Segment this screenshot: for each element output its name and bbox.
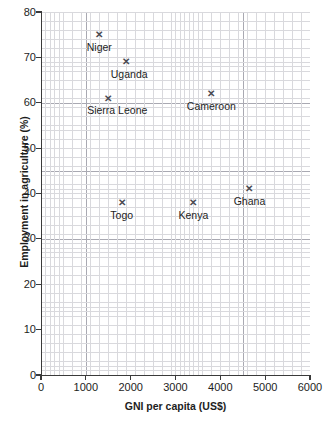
data-point-marker: ✕ xyxy=(117,198,126,207)
x-tick-2000 xyxy=(130,375,131,380)
y-tick-label: 70 xyxy=(6,52,36,63)
data-point-marker: ✕ xyxy=(245,184,254,193)
x-axis-title: GNI per capita (US$) xyxy=(41,400,310,412)
data-point-marker: ✕ xyxy=(207,89,216,98)
data-point-label: Togo xyxy=(110,210,133,221)
y-tick-20 xyxy=(36,284,42,285)
x-tick-label: 3000 xyxy=(151,382,201,393)
x-tick-4000 xyxy=(220,375,221,380)
data-point-label: Sierra Leone xyxy=(87,105,147,116)
y-tick-80 xyxy=(36,11,42,12)
scatter-chart: 01020304050607080 0100020003000400050006… xyxy=(0,0,326,422)
x-tick-3000 xyxy=(175,375,176,380)
data-point-label: Cameroon xyxy=(187,101,236,112)
x-tick-5000 xyxy=(265,375,266,380)
x-tick-label: 2000 xyxy=(106,382,156,393)
data-point-label: Niger xyxy=(87,42,112,53)
x-tick-label: 1000 xyxy=(61,382,111,393)
x-tick-0 xyxy=(40,375,41,380)
data-point-label: Ghana xyxy=(234,196,266,207)
y-tick-50 xyxy=(36,148,42,149)
x-tick-1000 xyxy=(85,375,86,380)
data-point-marker: ✕ xyxy=(104,94,113,103)
y-tick-60 xyxy=(36,102,42,103)
y-tick-10 xyxy=(36,329,42,330)
data-point-label: Uganda xyxy=(111,69,148,80)
y-tick-70 xyxy=(36,57,42,58)
data-point-marker: ✕ xyxy=(95,30,104,39)
data-point-marker: ✕ xyxy=(189,198,198,207)
y-tick-label: 0 xyxy=(6,370,36,381)
data-point-label: Kenya xyxy=(179,210,209,221)
y-tick-30 xyxy=(36,238,42,239)
y-tick-label: 80 xyxy=(6,7,36,18)
data-point-marker: ✕ xyxy=(122,57,131,66)
y-tick-40 xyxy=(36,193,42,194)
x-tick-label: 4000 xyxy=(195,382,245,393)
y-tick-label: 10 xyxy=(6,324,36,335)
x-tick-label: 6000 xyxy=(285,382,326,393)
x-tick-label: 5000 xyxy=(240,382,290,393)
plot-grid-area xyxy=(41,12,310,375)
x-tick-6000 xyxy=(309,375,310,380)
x-tick-label: 0 xyxy=(16,382,66,393)
y-axis-title: Employment in agriculture (%) xyxy=(18,82,30,302)
